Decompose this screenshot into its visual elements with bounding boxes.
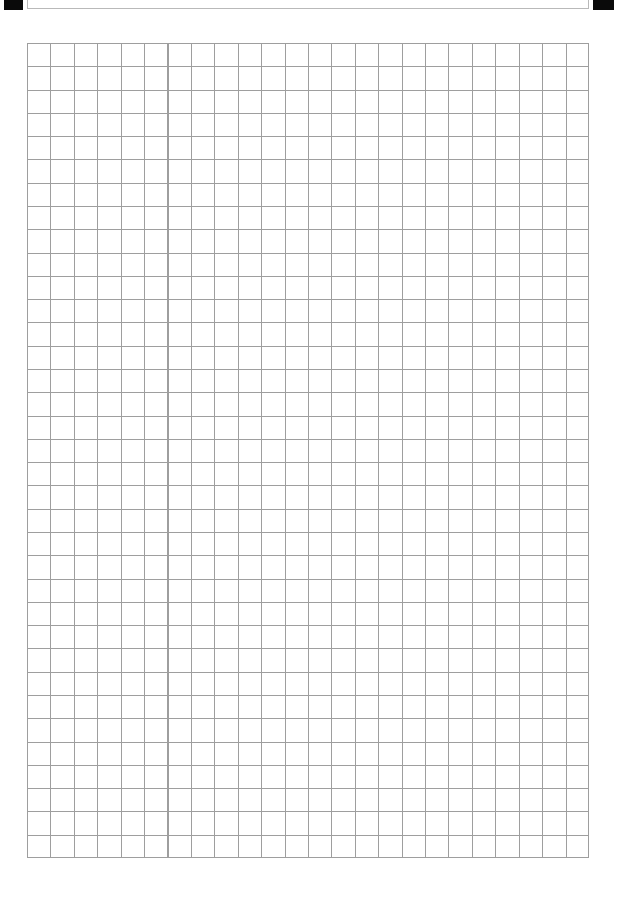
registration-mark-icon bbox=[593, 0, 614, 10]
registration-mark-icon bbox=[4, 0, 23, 10]
scanned-page bbox=[0, 0, 619, 900]
grid-worksheet-area bbox=[27, 43, 589, 858]
header-title-box bbox=[27, 0, 589, 9]
